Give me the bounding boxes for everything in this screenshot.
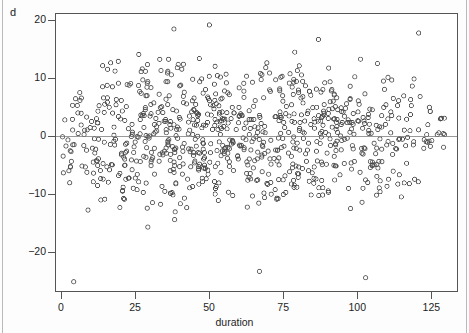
y-tick-mark xyxy=(48,252,55,253)
x-tick-label: 25 xyxy=(115,301,155,313)
x-tick-label: 75 xyxy=(263,301,303,313)
x-tick-mark xyxy=(431,292,432,299)
x-tick-label: 125 xyxy=(411,301,451,313)
x-tick-label: 100 xyxy=(337,301,377,313)
y-tick-mark xyxy=(48,194,55,195)
y-tick-mark xyxy=(48,20,55,21)
x-tick-mark xyxy=(357,292,358,299)
x-tick-label: 50 xyxy=(189,301,229,313)
y-tick-label: 10 xyxy=(8,71,46,83)
x-axis-title: duration xyxy=(0,316,469,328)
y-tick-mark xyxy=(48,78,55,79)
x-tick-mark xyxy=(135,292,136,299)
y-tick-mark xyxy=(48,136,55,137)
x-tick-mark xyxy=(283,292,284,299)
scatter-canvas xyxy=(56,14,457,291)
x-tick-mark xyxy=(61,292,62,299)
y-tick-label: −10 xyxy=(8,187,46,199)
plot-area xyxy=(55,13,458,292)
x-tick-mark xyxy=(209,292,210,299)
page-border-left xyxy=(2,0,3,333)
y-tick-label: 0 xyxy=(8,129,46,141)
figure-panel: d Schoenfeld Residual for age_mean 20100… xyxy=(0,0,469,333)
x-tick-label: 0 xyxy=(41,301,81,313)
page-border-right xyxy=(466,0,467,333)
y-tick-label: 20 xyxy=(8,13,46,25)
y-tick-label: −20 xyxy=(8,245,46,257)
